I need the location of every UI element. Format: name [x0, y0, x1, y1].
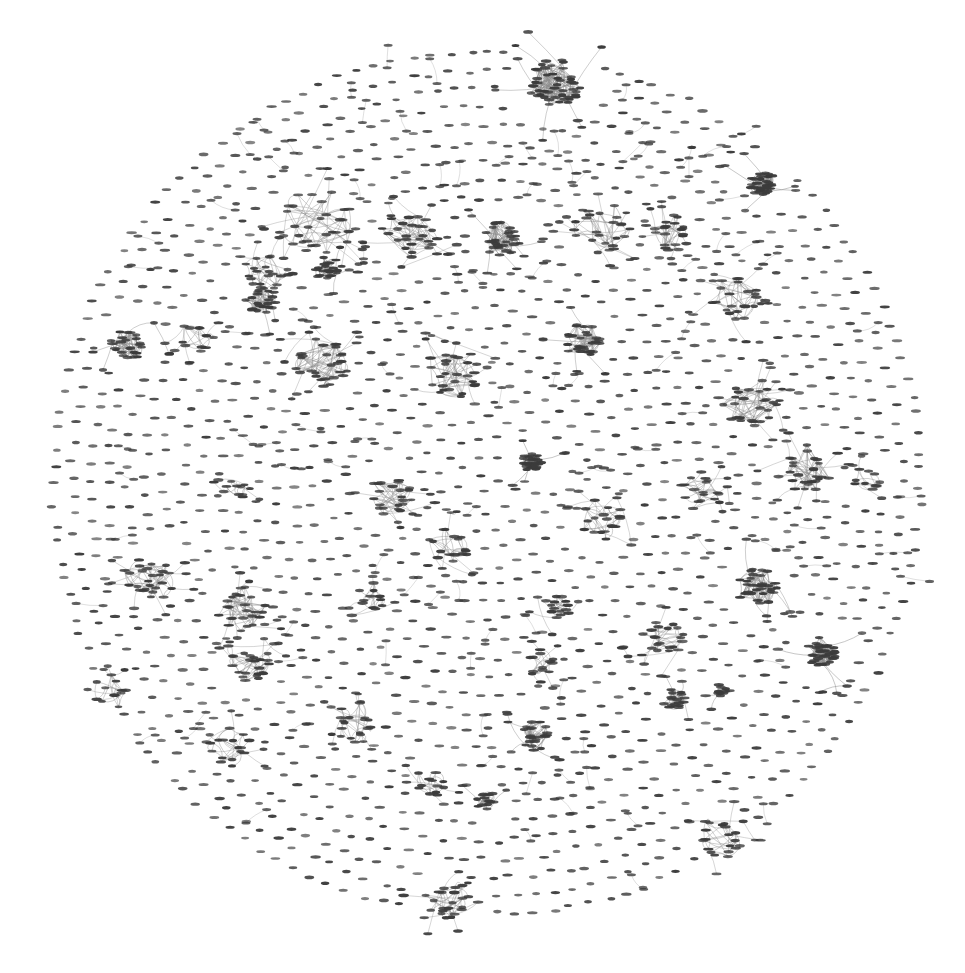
graph-visualization-canvas[interactable]: [0, 0, 965, 973]
canvas-background: [0, 0, 965, 973]
network-graph-svg[interactable]: [0, 0, 965, 973]
